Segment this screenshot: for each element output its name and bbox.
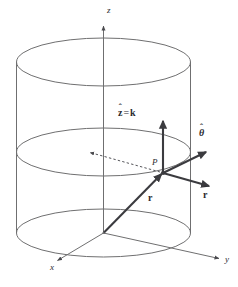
z-axis-label: z xyxy=(107,6,111,15)
position-vector-r xyxy=(104,174,162,233)
unit-vector-theta-hat-label: ˆ θ xyxy=(199,128,204,138)
unit-vector-z-hat-label: ˆ z =k xyxy=(118,108,136,118)
position-vector-label: r xyxy=(148,193,152,203)
point-p-label: P xyxy=(152,158,158,167)
figure-canvas: z x y P r ˆ z =k ˆ θ ˆ r xyxy=(0,0,238,287)
unit-vector-theta-hat xyxy=(163,152,206,173)
point-p-marker xyxy=(161,171,165,175)
dashed-radius-line xyxy=(90,153,160,173)
y-axis xyxy=(104,233,220,259)
y-axis-label: y xyxy=(225,255,229,264)
r-hat-glyph: ˆ r xyxy=(203,190,207,200)
equals-sign: = xyxy=(122,107,130,118)
x-axis-label: x xyxy=(50,263,54,272)
cylindrical-coordinates-diagram xyxy=(0,0,238,287)
hat-accent-icon: ˆ xyxy=(119,103,122,112)
unit-vector-r-hat-label: ˆ r xyxy=(203,190,207,200)
unit-vector-r-hat xyxy=(163,173,209,186)
theta-hat-glyph: ˆ θ xyxy=(199,128,204,138)
k-glyph: k xyxy=(130,107,136,118)
hat-accent-icon: ˆ xyxy=(204,185,207,194)
origin-marker xyxy=(102,232,104,234)
z-hat-glyph: ˆ z xyxy=(118,108,122,118)
hat-accent-icon: ˆ xyxy=(200,123,203,132)
